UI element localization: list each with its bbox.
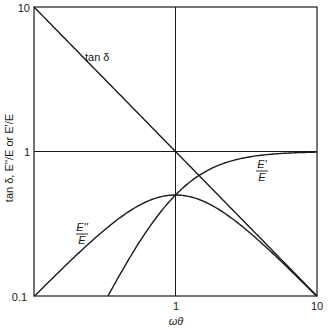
x-tick-1: 1 [173, 300, 179, 312]
e-double-prime-label: E'' E [76, 221, 89, 246]
chart: 10 1 0.1 1 10 ωθ tan δ, E''/E or E'/E ta… [0, 0, 330, 332]
svg-text:E'': E'' [76, 221, 88, 233]
svg-text:E': E' [257, 158, 267, 170]
x-axis-title: ωθ [169, 315, 184, 327]
svg-text:E: E [258, 171, 266, 183]
y-tick-10: 10 [18, 2, 30, 14]
x-tick-10: 10 [311, 300, 323, 312]
y-tick-0-1: 0.1 [12, 291, 27, 303]
storage-modulus-curve [108, 152, 317, 296]
tan-delta-label: tan δ [85, 51, 109, 63]
y-axis-title: tan δ, E''/E or E'/E [3, 114, 15, 202]
svg-text:E: E [78, 234, 86, 246]
y-tick-1: 1 [24, 146, 30, 158]
e-prime-label: E' E [256, 158, 268, 183]
